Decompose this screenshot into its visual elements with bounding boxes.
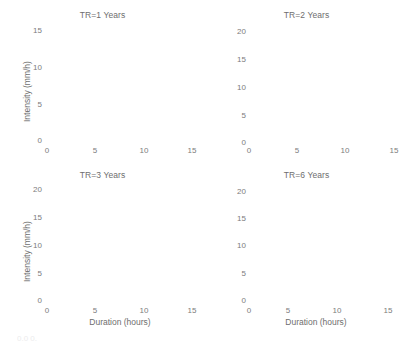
y-tick-label: 15: [24, 26, 42, 35]
y-tick-label: 15: [228, 214, 246, 223]
x-axis-label: Duration (hours): [240, 317, 392, 327]
x-tick-label: 0: [247, 306, 251, 315]
panel-tr-1-years: TR=1 Years Intensity (mm/h) 15 10 5 0 0 …: [0, 0, 205, 160]
x-tick-label: 15: [390, 146, 399, 155]
x-tick-label: 10: [341, 146, 350, 155]
y-tick-label: 0: [24, 296, 42, 305]
x-tick-label: 15: [188, 146, 197, 155]
y-tick-label: 10: [24, 63, 42, 72]
x-tick-label: 5: [295, 146, 299, 155]
x-tick-label: 0: [45, 146, 49, 155]
y-tick-label: 15: [228, 55, 246, 64]
panel-title: TR=3 Years: [0, 170, 205, 180]
panel-title: TR=2 Years: [204, 10, 409, 20]
y-tick-label: 20: [228, 187, 246, 196]
y-tick-label: 20: [228, 27, 246, 36]
y-tick-label: 0: [24, 136, 42, 145]
y-tick-label: 5: [24, 100, 42, 109]
panel-tr-2-years: TR=2 Years 20 15 10 5 0 0 5 10 15: [204, 0, 409, 160]
x-tick-label: 0: [247, 146, 251, 155]
x-tick-label: 15: [188, 306, 197, 315]
panel-title: TR=1 Years: [0, 10, 205, 20]
plot-area: [248, 26, 400, 140]
y-tick-label: 0: [228, 138, 246, 147]
y-tick-label: 5: [228, 111, 246, 120]
y-tick-label: 20: [24, 185, 42, 194]
x-tick-label: 5: [286, 306, 290, 315]
x-tick-label: 10: [333, 306, 342, 315]
y-tick-label: 10: [228, 241, 246, 250]
x-axis-label: Duration (hours): [44, 317, 196, 327]
x-tick-label: 10: [140, 306, 149, 315]
x-tick-label: 15: [384, 306, 393, 315]
panel-tr-6-years: TR=6 Years 20 15 10 5 0 0 5 10 15 Durati…: [204, 160, 409, 342]
y-tick-label: 5: [24, 269, 42, 278]
clipped-caption-fragment: 0.0 0.: [17, 334, 77, 342]
panel-tr-3-years: TR=3 Years Intensity (mm/h) 20 15 10 5 0…: [0, 160, 205, 342]
x-tick-label: 5: [93, 146, 97, 155]
panel-title: TR=6 Years: [204, 170, 409, 180]
x-tick-label: 0: [45, 306, 49, 315]
plot-area: [248, 186, 400, 300]
plot-area: [44, 186, 196, 300]
x-tick-label: 10: [140, 146, 149, 155]
y-tick-label: 5: [228, 269, 246, 278]
x-tick-label: 5: [93, 306, 97, 315]
plot-area: [44, 26, 196, 140]
y-tick-label: 10: [228, 83, 246, 92]
y-tick-label: 15: [24, 213, 42, 222]
y-tick-label: 10: [24, 241, 42, 250]
y-tick-label: 0: [228, 296, 246, 305]
figure-canvas: TR=1 Years Intensity (mm/h) 15 10 5 0 0 …: [0, 0, 409, 342]
